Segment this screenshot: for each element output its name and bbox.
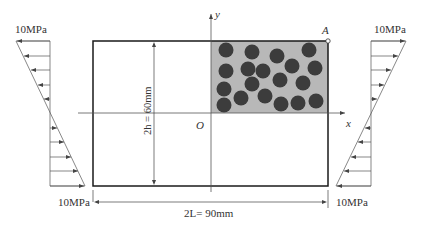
- particle: [296, 76, 311, 91]
- particle: [258, 89, 273, 104]
- particle: [274, 97, 289, 112]
- point-a-label: A: [321, 24, 329, 36]
- width-dimension-label: 2L= 90mm: [184, 207, 234, 219]
- origin-label: O: [196, 119, 204, 131]
- particle: [291, 96, 306, 111]
- particle: [245, 45, 260, 60]
- particle: [234, 91, 249, 106]
- particle: [256, 64, 271, 79]
- particle: [302, 43, 317, 58]
- point-a-marker: [326, 39, 330, 43]
- particle: [270, 49, 285, 64]
- particle: [241, 62, 256, 77]
- particle: [219, 43, 234, 58]
- x-axis-label: x: [345, 117, 351, 129]
- particle: [273, 73, 288, 88]
- particle: [308, 61, 323, 76]
- particle: [309, 94, 324, 109]
- particle: [219, 64, 234, 79]
- left-bottom-stress-label: 10MPa: [58, 196, 90, 208]
- particle: [285, 59, 300, 74]
- right-top-stress-label: 10MPa: [374, 23, 406, 35]
- particle: [217, 82, 232, 97]
- right-bottom-stress-label: 10MPa: [336, 196, 368, 208]
- left-top-stress-label: 10MPa: [15, 23, 47, 35]
- particle: [217, 98, 232, 113]
- right-stress-distribution: [336, 41, 406, 186]
- elasticity-diagram: x y O A 2h = 60mm 2L= 90mm 10MPa 10MPa: [0, 0, 421, 230]
- height-dimension-label: 2h = 60mm: [142, 86, 153, 135]
- particle: [245, 77, 260, 92]
- left-stress-distribution: [16, 41, 85, 186]
- y-axis-label: y: [214, 8, 220, 20]
